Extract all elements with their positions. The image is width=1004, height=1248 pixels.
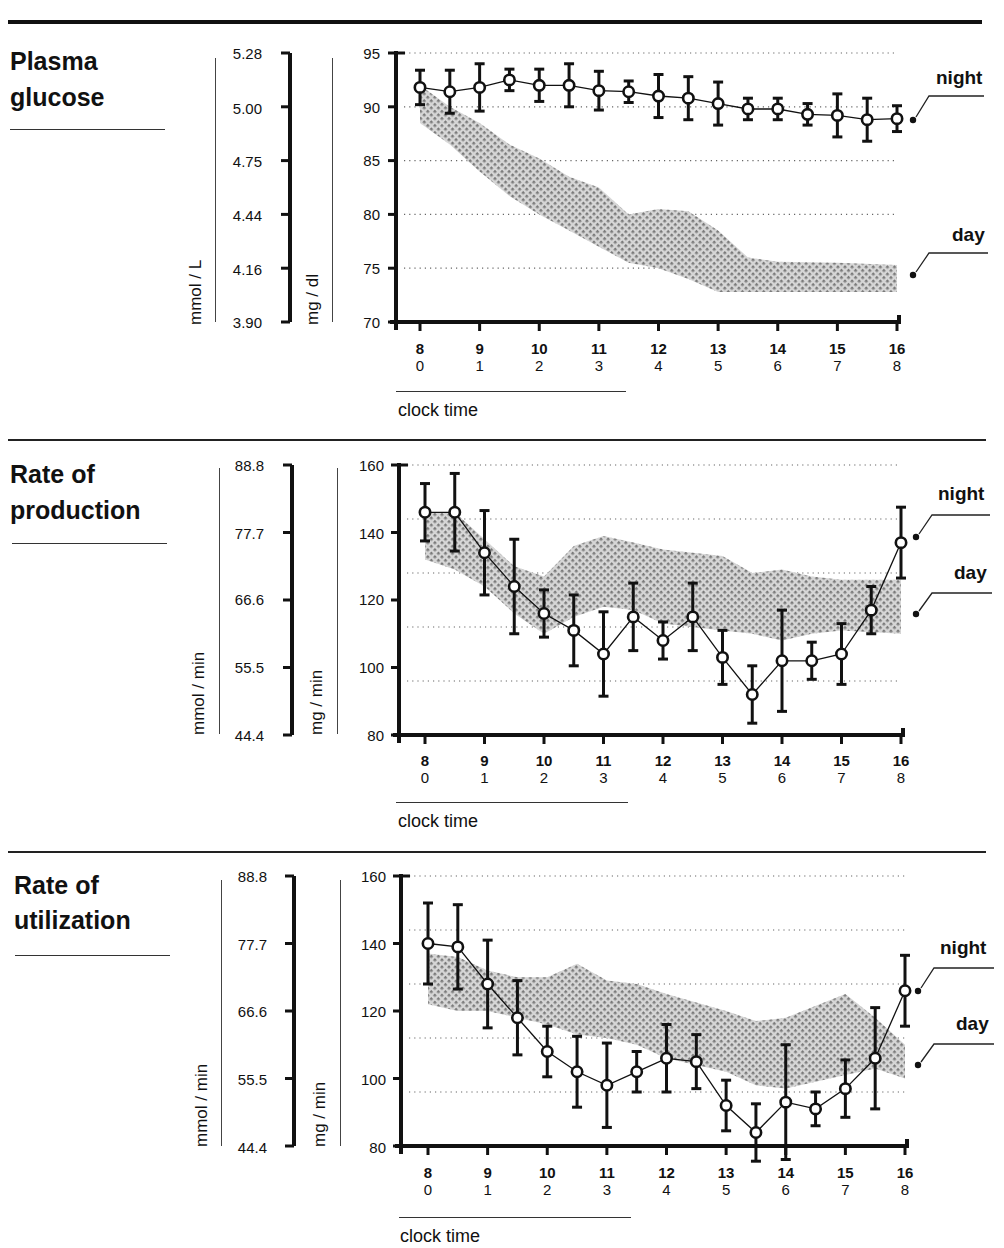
legend-night-dot <box>913 534 919 540</box>
night-data-point <box>420 507 430 517</box>
night-data-point <box>896 537 906 547</box>
night-data-point <box>870 1053 880 1063</box>
chart-plot-area <box>0 0 1004 1248</box>
night-data-point <box>539 608 549 618</box>
night-data-point <box>751 1127 761 1137</box>
night-data-point <box>661 1053 671 1063</box>
night-data-point <box>688 612 698 622</box>
night-data-point <box>721 1100 731 1110</box>
night-data-point <box>623 87 633 97</box>
night-data-point <box>802 109 812 119</box>
night-data-point <box>773 104 783 114</box>
night-data-point <box>777 656 787 666</box>
legend-day-leader <box>921 1044 994 1062</box>
night-data-point <box>836 649 846 659</box>
night-data-point <box>807 656 817 666</box>
night-data-point <box>445 87 455 97</box>
night-data-point <box>594 85 604 95</box>
night-data-point <box>862 115 872 125</box>
night-data-point <box>628 612 638 622</box>
night-data-point <box>810 1104 820 1114</box>
legend-night-dot <box>910 117 916 123</box>
night-data-point <box>504 75 514 85</box>
night-data-point <box>892 113 902 123</box>
night-data-point <box>509 581 519 591</box>
night-data-point <box>534 80 544 90</box>
night-data-point <box>840 1083 850 1093</box>
night-data-point <box>479 548 489 558</box>
night-data-point <box>569 625 579 635</box>
legend-day-dot <box>910 272 916 278</box>
night-data-point <box>747 689 757 699</box>
night-data-point <box>683 93 693 103</box>
night-data-point <box>564 80 574 90</box>
night-data-point <box>900 986 910 996</box>
night-data-point <box>832 110 842 120</box>
night-data-point <box>866 605 876 615</box>
night-data-point <box>717 652 727 662</box>
night-data-point <box>453 942 463 952</box>
legend-day-leader <box>916 253 988 272</box>
night-data-point <box>598 649 608 659</box>
night-data-point <box>423 938 433 948</box>
night-data-point <box>631 1067 641 1077</box>
night-data-point <box>691 1056 701 1066</box>
legend-night-leader <box>916 96 984 117</box>
night-data-point <box>602 1080 612 1090</box>
night-data-point <box>572 1067 582 1077</box>
night-data-point <box>743 104 753 114</box>
night-data-point <box>415 82 425 92</box>
night-data-point <box>450 507 460 517</box>
legend-night-leader <box>921 968 994 988</box>
night-data-point <box>474 82 484 92</box>
night-data-point <box>713 98 723 108</box>
night-data-point <box>542 1046 552 1056</box>
night-data-point <box>781 1097 791 1107</box>
legend-night-dot <box>915 988 921 994</box>
legend-day-leader <box>919 593 992 611</box>
night-data-point <box>512 1013 522 1023</box>
night-data-point <box>653 91 663 101</box>
legend-day-dot <box>913 611 919 617</box>
legend-day-dot <box>915 1062 921 1068</box>
night-data-point <box>658 635 668 645</box>
legend-night-leader <box>919 515 990 534</box>
night-data-point <box>482 979 492 989</box>
